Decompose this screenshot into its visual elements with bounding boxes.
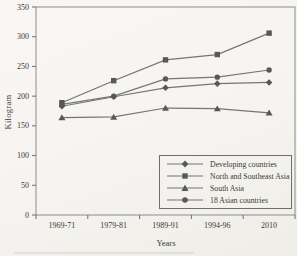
data-point-circle (59, 102, 64, 107)
y-tick-label: 200 (17, 92, 29, 101)
data-point-circle (111, 93, 116, 98)
data-point-diamond (214, 80, 221, 87)
legend-label: 18 Asian countries (210, 196, 268, 205)
data-point-square (215, 52, 220, 57)
x-tick-label: 1969-71 (49, 221, 76, 230)
legend-item-north-southeast-asia: North and Southeast Asia (160, 171, 291, 182)
legend-item-developing-countries: Developing countries (160, 159, 291, 170)
y-tick-label: 100 (17, 151, 29, 160)
plot-svg: 0501001502002503003501969-711979-811989-… (0, 0, 297, 256)
triangle-marker-icon (166, 183, 204, 193)
y-tick-label: 300 (17, 32, 29, 41)
legend-label: Developing countries (210, 160, 277, 169)
x-axis-title: Years (157, 238, 176, 248)
data-point-square (111, 78, 116, 83)
legend: Developing countries North and Southeast… (159, 155, 292, 209)
series-line-square (62, 33, 269, 103)
x-tick-label: 1989-91 (152, 221, 179, 230)
data-point-square (163, 57, 168, 62)
square-marker-icon (166, 171, 204, 181)
y-tick-label: 0 (25, 211, 29, 220)
y-tick-label: 350 (17, 3, 29, 12)
data-point-circle (266, 67, 271, 72)
data-point-diamond (266, 79, 273, 86)
data-point-circle (163, 76, 168, 81)
y-axis-title: Kilogram (3, 95, 13, 130)
x-tick-label: 1979-81 (100, 221, 127, 230)
legend-item-18-asian-countries: 18 Asian countries (160, 195, 291, 206)
chart-figure: 0501001502002503003501969-711979-811989-… (0, 0, 297, 256)
circle-marker-icon (166, 195, 204, 205)
y-tick-label: 250 (17, 62, 29, 71)
data-point-circle (215, 74, 220, 79)
diamond-marker-icon (166, 159, 204, 169)
legend-label: North and Southeast Asia (210, 172, 289, 181)
legend-item-south-asia: South Asia (160, 183, 291, 194)
data-point-diamond (162, 85, 169, 92)
x-tick-label: 2010 (261, 221, 277, 230)
data-point-square (266, 30, 271, 35)
y-tick-label: 150 (17, 121, 29, 130)
x-tick-label: 1994-96 (204, 221, 231, 230)
y-tick-label: 50 (21, 181, 29, 190)
legend-label: South Asia (210, 184, 244, 193)
scan-artifact (14, 252, 194, 254)
